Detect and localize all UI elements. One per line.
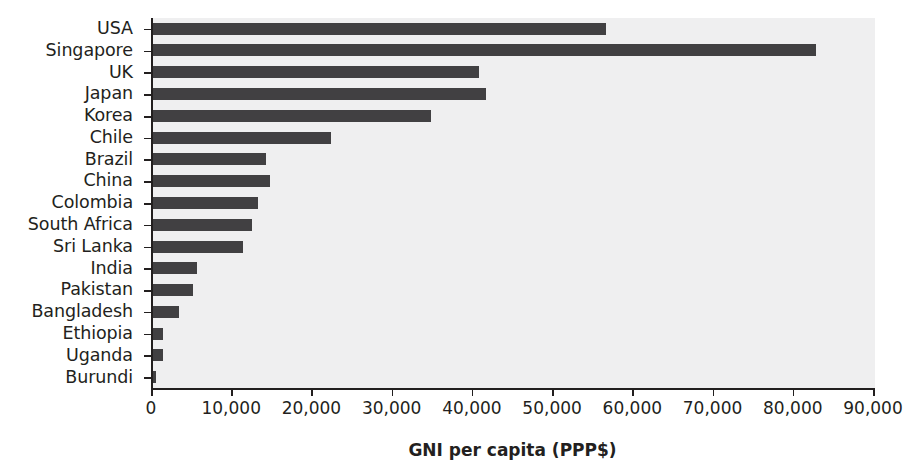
bar — [153, 371, 156, 383]
bar-row — [153, 149, 875, 170]
y-axis-tick-mark — [144, 159, 151, 161]
y-axis-category-labels: USA Singapore UK Japan Korea Chile Brazi… — [0, 18, 140, 388]
y-axis-tick-mark — [144, 290, 151, 292]
y-axis-tick-label: Sri Lanka — [0, 236, 140, 257]
y-axis-tick-mark — [144, 334, 151, 336]
y-axis-tick-mark — [144, 181, 151, 183]
bar — [153, 110, 431, 122]
bar-row — [153, 236, 875, 257]
y-axis-tick-label: Brazil — [0, 149, 140, 170]
y-axis-tick-label: Bangladesh — [0, 301, 140, 322]
x-axis-tick-label: 0 — [146, 398, 157, 418]
x-axis-tick-mark — [392, 388, 394, 396]
x-axis-tick-mark — [311, 388, 313, 396]
y-axis-tick-label: South Africa — [0, 214, 140, 235]
x-axis-tick-label: 80,000 — [763, 398, 822, 418]
y-axis-tick-mark — [144, 72, 151, 74]
bar-row — [153, 62, 875, 83]
y-axis-tick-mark — [144, 138, 151, 140]
bar-row — [153, 214, 875, 235]
y-axis-tick-label: UK — [0, 62, 140, 83]
bar — [153, 88, 486, 100]
y-axis-tick-label: Colombia — [0, 192, 140, 213]
x-axis-tick-label: 10,000 — [201, 398, 260, 418]
y-axis-tick-mark — [144, 225, 151, 227]
y-axis-tick-mark — [144, 94, 151, 96]
x-axis-tick-labels: 010,00020,00030,00040,00050,00060,00070,… — [0, 398, 910, 424]
x-axis-line — [151, 388, 874, 390]
bar-row — [153, 367, 875, 388]
bar-row — [153, 170, 875, 191]
y-axis-tick-mark — [144, 247, 151, 249]
bar-chart: USA Singapore UK Japan Korea Chile Brazi… — [0, 0, 910, 473]
x-axis-tick-label: 20,000 — [282, 398, 341, 418]
bar-row — [153, 345, 875, 366]
y-axis-tick-label: Singapore — [0, 40, 140, 61]
bar-row — [153, 301, 875, 322]
y-axis-tick-label: Uganda — [0, 345, 140, 366]
bar-row — [153, 127, 875, 148]
y-axis-tick-label: Ethiopia — [0, 323, 140, 344]
bar-row — [153, 83, 875, 104]
y-axis-tick-mark — [144, 377, 151, 379]
y-axis-tick-label: Pakistan — [0, 279, 140, 300]
x-axis-tick-mark — [632, 388, 634, 396]
y-axis-tick-mark — [144, 116, 151, 118]
bar — [153, 23, 606, 35]
bar — [153, 219, 252, 231]
x-axis-tick-mark — [552, 388, 554, 396]
y-axis-tick-label: China — [0, 170, 140, 191]
bar-series — [153, 18, 875, 388]
y-axis-tick-mark — [144, 29, 151, 31]
y-axis-tick-mark — [144, 355, 151, 357]
plot-area — [151, 18, 875, 388]
bar-row — [153, 40, 875, 61]
bar — [153, 349, 163, 361]
bar — [153, 262, 197, 274]
y-axis-tick-label: Japan — [0, 83, 140, 104]
bar — [153, 306, 179, 318]
x-axis-tick-label: 50,000 — [522, 398, 581, 418]
x-axis-tick-label: 70,000 — [683, 398, 742, 418]
bar — [153, 241, 243, 253]
x-axis-tick-label: 40,000 — [442, 398, 501, 418]
y-axis-tick-mark — [144, 312, 151, 314]
x-axis-tick-mark — [793, 388, 795, 396]
y-axis-tick-mark — [144, 268, 151, 270]
y-axis-tick-mark — [144, 51, 151, 53]
y-axis-tick-label: India — [0, 258, 140, 279]
bar-row — [153, 18, 875, 39]
bar-row — [153, 258, 875, 279]
bar-row — [153, 192, 875, 213]
bar — [153, 197, 258, 209]
bar-row — [153, 323, 875, 344]
bar — [153, 44, 816, 56]
x-axis-tick-mark — [472, 388, 474, 396]
x-axis-title: GNI per capita (PPP$) — [151, 440, 874, 460]
x-axis-tick-label: 90,000 — [843, 398, 902, 418]
y-axis-tick-label: Korea — [0, 105, 140, 126]
bar — [153, 132, 331, 144]
y-axis-tick-mark — [144, 203, 151, 205]
bar — [153, 175, 270, 187]
bar — [153, 153, 266, 165]
bar — [153, 66, 479, 78]
y-axis-tick-label: Chile — [0, 127, 140, 148]
x-axis-tick-mark — [873, 388, 875, 396]
x-axis-tick-mark — [151, 388, 153, 396]
bar-row — [153, 279, 875, 300]
x-axis-tick-label: 30,000 — [362, 398, 421, 418]
y-axis-tick-label: USA — [0, 18, 140, 39]
bar-row — [153, 105, 875, 126]
x-axis-tick-label: 60,000 — [603, 398, 662, 418]
bar — [153, 328, 163, 340]
y-axis-tick-label: Burundi — [0, 367, 140, 388]
x-axis-tick-mark — [713, 388, 715, 396]
x-axis-tick-mark — [231, 388, 233, 396]
bar — [153, 284, 193, 296]
